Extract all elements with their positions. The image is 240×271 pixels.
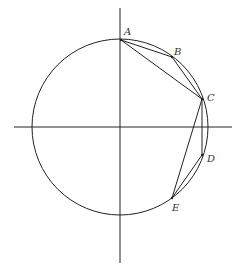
label-c: C	[207, 92, 215, 103]
point-e	[171, 197, 173, 199]
chords	[121, 40, 202, 198]
label-a: A	[123, 26, 131, 37]
geometry-diagram: ABCDE	[0, 0, 240, 271]
point-c	[201, 98, 203, 100]
chord-ce	[172, 99, 202, 198]
point-b	[171, 56, 173, 58]
label-d: D	[206, 153, 215, 164]
chord-ab	[121, 40, 172, 57]
chord-bc	[172, 57, 202, 99]
chord-de	[172, 155, 202, 198]
label-b: B	[173, 46, 181, 57]
points	[120, 39, 203, 199]
label-e: E	[171, 202, 180, 213]
point-d	[201, 154, 203, 156]
point-a	[120, 39, 122, 41]
